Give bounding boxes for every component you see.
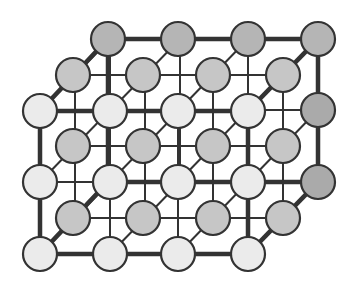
front-atom [161, 94, 195, 128]
front-atom [93, 237, 127, 271]
back-atom [231, 22, 265, 56]
back-atom [91, 22, 125, 56]
front-atom [231, 165, 265, 199]
middle-atom [56, 129, 90, 163]
middle-atom [196, 201, 230, 235]
middle-atom [56, 58, 90, 92]
front-atom [23, 94, 57, 128]
front-atom [161, 165, 195, 199]
middle-atom [56, 201, 90, 235]
middle-atom [196, 129, 230, 163]
middle-atom [266, 201, 300, 235]
middle-atom [126, 58, 160, 92]
middle-atom [126, 201, 160, 235]
front-atom [23, 165, 57, 199]
front-atom [161, 237, 195, 271]
cubic-lattice-svg [0, 0, 359, 287]
front-atom [93, 94, 127, 128]
front-atom [231, 237, 265, 271]
lattice-diagram [0, 0, 359, 287]
back-atom [161, 22, 195, 56]
middle-atom [126, 129, 160, 163]
front-atom [93, 165, 127, 199]
back-right-atom [301, 165, 335, 199]
front-atom [23, 237, 57, 271]
front-atom [231, 94, 265, 128]
back-right-atom [301, 93, 335, 127]
back-atom [301, 22, 335, 56]
middle-atom [266, 58, 300, 92]
middle-atom [266, 129, 300, 163]
middle-atom [196, 58, 230, 92]
